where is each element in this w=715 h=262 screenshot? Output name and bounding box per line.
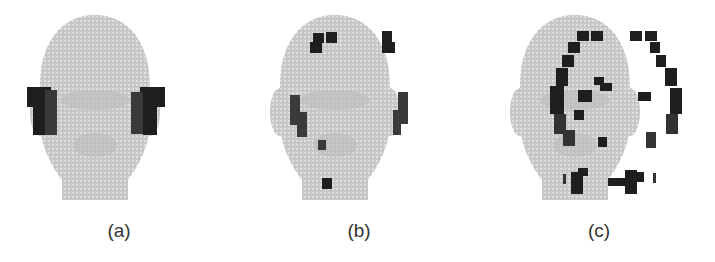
panel-b: (b) (240, 0, 478, 262)
panel-label-a: (a) (0, 220, 238, 242)
panel-label-c: (c) (480, 220, 715, 242)
panel-a: (a) (0, 0, 238, 262)
panel-label-b: (b) (240, 220, 478, 242)
panel-c: (c) (480, 0, 715, 262)
